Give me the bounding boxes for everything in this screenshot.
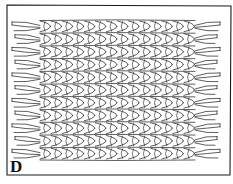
braided-mat-drawing bbox=[0, 0, 233, 184]
figure-label: D bbox=[10, 158, 22, 175]
braided-mat-figure bbox=[0, 0, 233, 184]
